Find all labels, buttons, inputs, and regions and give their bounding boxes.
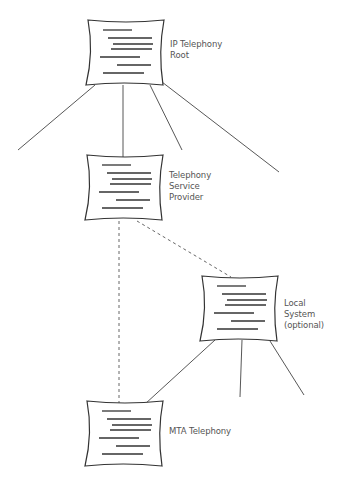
diagram-canvas [0,0,340,479]
tsp-label: Telephony Service Provider [169,170,211,203]
tsp-label-line-1: Telephony [169,170,211,181]
mta-label-line-1: MTA Telephony [169,426,231,437]
local-document-icon [200,276,278,341]
tsp-label-line-2: Service [169,181,211,192]
mta-document-icon [85,401,163,466]
local-connector-lines [145,340,304,404]
root-document-icon [86,20,164,85]
local-label-line-2: System [284,309,324,320]
root-label-line-1: IP Telephony [170,39,222,50]
local-label-line-3: (optional) [284,320,324,331]
root-label-line-2: Root [170,50,222,61]
local-label-line-1: Local [284,298,324,309]
tsp-label-line-3: Provider [169,192,211,203]
local-label: Local System (optional) [284,298,324,331]
mta-label: MTA Telephony [169,426,231,437]
tsp-document-icon [85,155,163,220]
root-label: IP Telephony Root [170,39,222,61]
